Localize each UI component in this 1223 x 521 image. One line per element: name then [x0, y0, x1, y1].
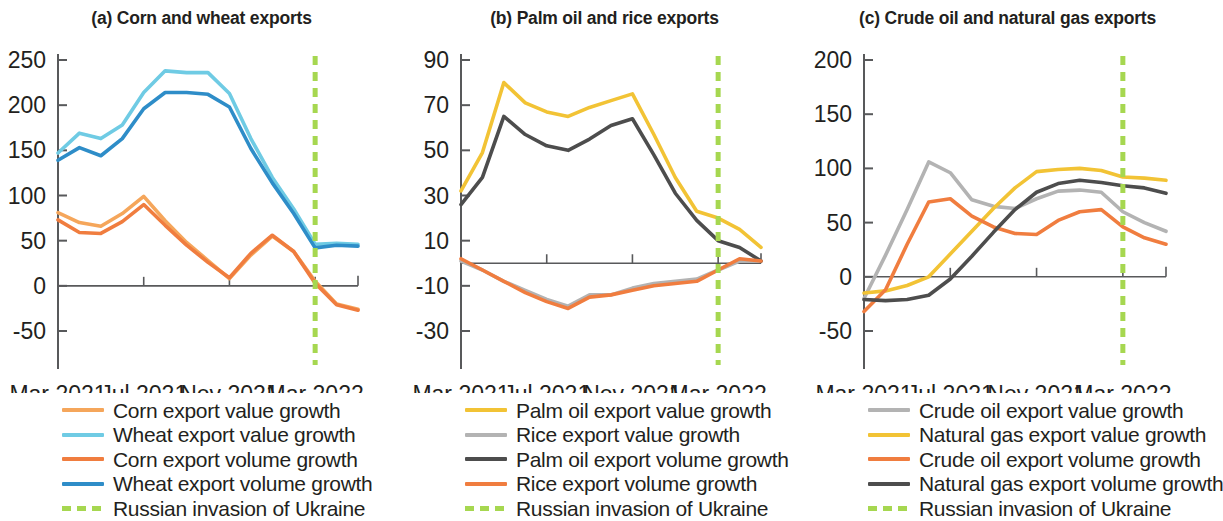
y-axis-tick-label: 50	[826, 210, 852, 236]
panel-b-plot: -30-101030507090Mar 2021Jul 2021Nov 2021…	[403, 38, 806, 393]
legend-item: Rice export value growth	[465, 423, 740, 448]
legend-item: Palm oil export volume growth	[465, 447, 789, 472]
legend-swatch-line-icon	[868, 433, 910, 437]
y-axis-tick-label: 50	[20, 228, 46, 254]
x-axis-tick-label: Mar 2022	[267, 381, 364, 393]
legend-item: Crude oil export value growth	[868, 398, 1183, 423]
y-axis-tick-label: -10	[416, 273, 449, 299]
panel-a: (a) Corn and wheat exports -500501001502…	[0, 0, 403, 521]
panel-b-chart-svg: -30-101030507090Mar 2021Jul 2021Nov 2021…	[403, 38, 806, 393]
legend-swatch-line-icon	[868, 482, 910, 486]
panel-b: (b) Palm oil and rice exports -30-101030…	[403, 0, 806, 521]
panel-b-legend: Palm oil export value growth Rice export…	[403, 398, 806, 521]
legend-item-label: Wheat export value growth	[113, 424, 355, 445]
y-axis-tick-label: 70	[423, 92, 449, 118]
y-axis-tick-label: 0	[839, 264, 852, 290]
y-axis-tick-label: 150	[814, 101, 852, 127]
legend-swatch-line-icon	[62, 482, 104, 486]
y-axis-tick-label: -50	[819, 318, 852, 344]
panel-c-chart-svg: -50050100150200Mar 2021Jul 2021Nov 2021M…	[806, 38, 1209, 393]
legend-swatch-line-icon	[465, 457, 507, 461]
legend-item-label: Russian invasion of Ukraine	[919, 498, 1171, 519]
legend-item-label: Natural gas export value growth	[919, 424, 1206, 445]
legend-item-label: Natural gas export volume growth	[919, 473, 1223, 494]
x-axis-tick-label: Mar 2021	[815, 381, 912, 393]
legend-item: Rice export volume growth	[465, 472, 757, 497]
legend-swatch-line-icon	[465, 408, 507, 412]
legend-item-label: Palm oil export value growth	[516, 400, 771, 421]
legend-item: Wheat export value growth	[62, 423, 355, 448]
legend-item: Crude oil export volume growth	[868, 447, 1201, 472]
legend-item: Natural gas export value growth	[868, 423, 1206, 448]
legend-item-label: Crude oil export value growth	[919, 400, 1183, 421]
y-axis-tick-label: 200	[8, 92, 46, 118]
y-axis-tick-label: 100	[8, 183, 46, 209]
x-axis-tick-label: Jul 2021	[503, 381, 590, 393]
legend-item-label: Crude oil export volume growth	[919, 449, 1201, 470]
x-axis-tick-label: Mar 2022	[1074, 381, 1171, 393]
legend-item: Palm oil export value growth	[465, 398, 771, 423]
y-axis-tick-label: -50	[13, 318, 46, 344]
panel-c: (c) Crude oil and natural gas exports -5…	[806, 0, 1209, 521]
legend-item-label: Corn export value growth	[113, 400, 340, 421]
legend-item-label: Wheat export volume growth	[113, 473, 373, 494]
legend-swatch-line-icon	[465, 482, 507, 486]
panel-c-plot: -50050100150200Mar 2021Jul 2021Nov 2021M…	[806, 38, 1209, 393]
y-axis-tick-label: -30	[416, 318, 449, 344]
y-axis-tick-label: 0	[33, 273, 46, 299]
y-axis-tick-label: 50	[423, 137, 449, 163]
legend-item: Wheat export volume growth	[62, 472, 373, 497]
x-axis-tick-label: Jul 2021	[907, 381, 994, 393]
legend-swatch-line-icon	[465, 433, 507, 437]
y-axis-tick-label: 150	[8, 137, 46, 163]
x-axis-tick-label: Nov 2021	[180, 381, 278, 393]
x-axis-tick-label: Nov 2021	[987, 381, 1085, 393]
panel-b-title: (b) Palm oil and rice exports	[403, 0, 806, 29]
x-axis-tick-label: Mar 2022	[670, 381, 767, 393]
panel-a-legend: Corn export value growth Wheat export va…	[0, 398, 403, 521]
legend-item-label: Rice export value growth	[516, 424, 740, 445]
x-axis-tick-label: Mar 2021	[412, 381, 509, 393]
legend-item: Corn export volume growth	[62, 447, 358, 472]
x-axis-tick-label: Mar 2021	[9, 381, 106, 393]
legend-swatch-line-icon	[62, 457, 104, 461]
panel-a-plot: -50050100150200250Mar 2021Jul 2021Nov 20…	[0, 38, 403, 393]
legend-swatch-dashed-line-icon	[465, 506, 507, 511]
legend-swatch-dashed-line-icon	[868, 506, 910, 511]
x-axis-tick-label: Jul 2021	[100, 381, 187, 393]
y-axis-tick-label: 250	[8, 47, 46, 73]
legend-swatch-line-icon	[62, 433, 104, 437]
y-axis-tick-label: 90	[423, 47, 449, 73]
legend-item-label: Russian invasion of Ukraine	[516, 498, 768, 519]
legend-swatch-line-icon	[868, 408, 910, 412]
legend-item: Corn export value growth	[62, 398, 340, 423]
panel-c-legend: Crude oil export value growth Natural ga…	[806, 398, 1209, 521]
legend-item: Russian invasion of Ukraine	[62, 496, 365, 521]
panel-c-title: (c) Crude oil and natural gas exports	[806, 0, 1209, 29]
legend-item-label: Russian invasion of Ukraine	[113, 498, 365, 519]
panel-a-chart-svg: -50050100150200250Mar 2021Jul 2021Nov 20…	[0, 38, 403, 393]
y-axis-tick-label: 100	[814, 155, 852, 181]
legend-swatch-dashed-line-icon	[62, 506, 104, 511]
y-axis-tick-label: 200	[814, 47, 852, 73]
legend-swatch-line-icon	[868, 457, 910, 461]
legend-item-label: Palm oil export volume growth	[516, 449, 789, 470]
legend-swatch-line-icon	[62, 408, 104, 412]
legend-item: Russian invasion of Ukraine	[868, 496, 1171, 521]
legend-item: Natural gas export volume growth	[868, 472, 1223, 497]
legend-item-label: Rice export volume growth	[516, 473, 757, 494]
y-axis-tick-label: 10	[423, 228, 449, 254]
series-line	[864, 162, 1166, 299]
legend-item: Russian invasion of Ukraine	[465, 496, 768, 521]
y-axis-tick-label: 30	[423, 183, 449, 209]
panel-a-title: (a) Corn and wheat exports	[0, 0, 403, 29]
x-axis-tick-label: Nov 2021	[583, 381, 681, 393]
legend-item-label: Corn export volume growth	[113, 449, 358, 470]
